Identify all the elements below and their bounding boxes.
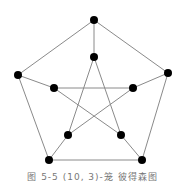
node-outer-bottom-left bbox=[45, 156, 53, 164]
node-inner-left bbox=[50, 84, 58, 92]
edge-outer-left-inner-left bbox=[18, 75, 54, 88]
edge-outer-bottom-left-inner-bottom-left bbox=[49, 135, 68, 160]
edge-outer-left-outer-top bbox=[18, 20, 94, 75]
edge-inner-right-inner-bottom-left bbox=[68, 88, 133, 135]
graph-nodes bbox=[14, 16, 172, 164]
node-outer-top bbox=[90, 16, 98, 24]
node-inner-top bbox=[90, 53, 98, 61]
edge-inner-top-inner-bottom-left bbox=[68, 57, 94, 135]
node-inner-bottom-right bbox=[117, 131, 125, 139]
edge-inner-top-inner-bottom-right bbox=[94, 57, 121, 135]
edge-outer-bottom-right-inner-bottom-right bbox=[121, 135, 142, 160]
node-inner-right bbox=[129, 84, 137, 92]
edge-outer-right-outer-bottom-right bbox=[142, 73, 168, 160]
petersen-graph-diagram bbox=[0, 0, 185, 182]
node-outer-left bbox=[14, 71, 22, 79]
edge-outer-bottom-left-outer-left bbox=[18, 75, 49, 160]
node-outer-bottom-right bbox=[138, 156, 146, 164]
figure-caption: 图 5-5 (10, 3)-笼 彼得森图 bbox=[0, 172, 185, 182]
edge-outer-right-inner-right bbox=[133, 73, 168, 88]
edge-inner-left-inner-bottom-right bbox=[54, 88, 121, 135]
node-inner-bottom-left bbox=[64, 131, 72, 139]
graph-edges bbox=[18, 20, 168, 160]
node-outer-right bbox=[164, 69, 172, 77]
edge-outer-top-outer-right bbox=[94, 20, 168, 73]
